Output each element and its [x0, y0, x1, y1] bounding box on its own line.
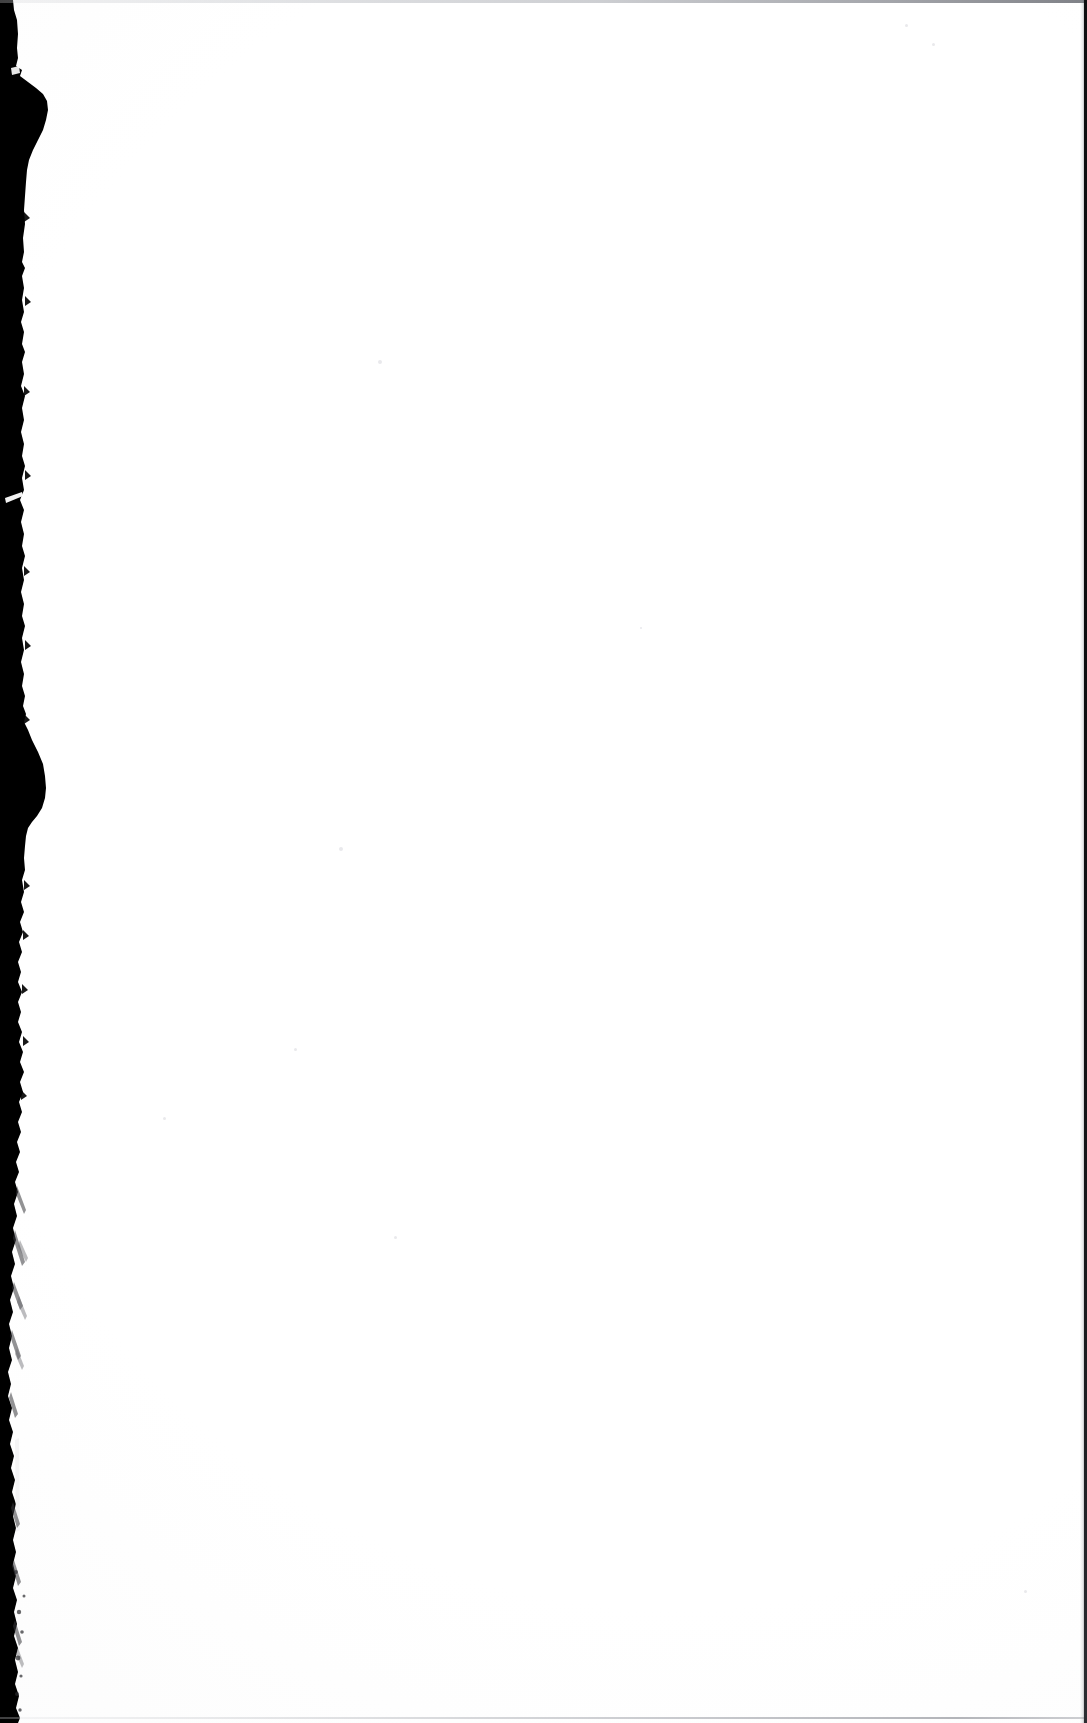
- gutter-shadow: [0, 0, 60, 1723]
- gutter-shadow-core: [0, 0, 60, 1723]
- scan-edge-top-line: [0, 0, 1087, 3]
- scan-edge-bottom-line: [0, 1717, 1087, 1719]
- page-content-area: [70, 30, 1067, 1693]
- scanned-page: [0, 0, 1087, 1723]
